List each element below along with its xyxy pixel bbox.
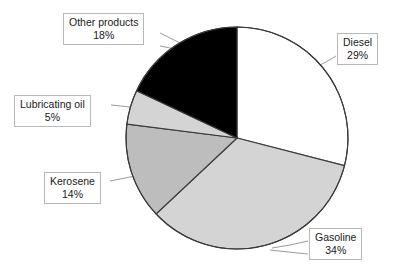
leader-line-gasoline-lower <box>270 250 308 254</box>
callout-diesel-category: Diesel <box>343 36 372 49</box>
callout-kerosene-category: Kerosene <box>50 175 95 188</box>
callout-lubricating-oil-value: 5% <box>20 111 85 124</box>
callout-other-products-category: Other products <box>69 16 138 29</box>
callout-kerosene-value: 14% <box>50 188 95 201</box>
pie-slices <box>126 27 348 249</box>
callout-gasoline-category: Gasoline <box>315 231 356 244</box>
callout-gasoline[interactable]: Gasoline 34% <box>309 228 362 260</box>
pie-chart: Other products 18% Diesel 29% Lubricatin… <box>0 0 396 279</box>
callout-other-products[interactable]: Other products 18% <box>63 13 144 45</box>
callout-kerosene[interactable]: Kerosene 14% <box>44 172 101 204</box>
callout-gasoline-value: 34% <box>315 244 356 257</box>
leader-line-gasoline <box>272 241 308 248</box>
callout-lubricating-oil-category: Lubricating oil <box>20 98 85 111</box>
callout-diesel[interactable]: Diesel 29% <box>337 33 378 65</box>
callout-lubricating-oil[interactable]: Lubricating oil 5% <box>14 95 91 127</box>
callout-other-products-value: 18% <box>69 29 138 42</box>
callout-diesel-value: 29% <box>343 49 372 62</box>
